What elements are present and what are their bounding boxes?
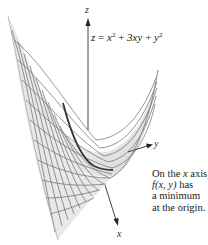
caption-args: (x, y) bbox=[155, 179, 177, 190]
equation-term1-exponent: 2 bbox=[112, 31, 116, 39]
equals-sign: = bbox=[98, 31, 104, 43]
caption-text: has bbox=[177, 179, 194, 190]
plus-sign: + bbox=[118, 31, 124, 43]
caption-line-3: a minimum bbox=[152, 190, 208, 201]
z-axis-label: z bbox=[85, 4, 89, 15]
caption-text: On the bbox=[152, 168, 183, 179]
caption-line-2: f(x, y) has bbox=[152, 179, 208, 190]
figure-caption: On the x axis, f(x, y) has a minimum at … bbox=[152, 168, 208, 213]
caption-text: axis, bbox=[188, 168, 208, 179]
equation-lhs: z bbox=[91, 31, 95, 43]
equation-term3-exponent: 2 bbox=[159, 31, 163, 39]
x-axis-arrowhead bbox=[114, 218, 119, 226]
caption-line-4: at the origin. bbox=[152, 202, 208, 213]
x-axis-label: x bbox=[117, 228, 121, 239]
saddle-surface-figure: z y x z = x2 + 3xy + y2 On the x axis, f… bbox=[0, 0, 208, 245]
equation-term2: 3xy bbox=[127, 31, 142, 43]
plus-sign: + bbox=[145, 31, 151, 43]
z-axis-arrowhead bbox=[86, 18, 91, 26]
y-axis-arrowhead bbox=[146, 144, 153, 149]
caption-line-1: On the x axis, bbox=[152, 168, 208, 179]
x-axis bbox=[105, 185, 116, 220]
y-axis-label: y bbox=[154, 138, 158, 149]
surface-equation: z = x2 + 3xy + y2 bbox=[91, 31, 162, 43]
